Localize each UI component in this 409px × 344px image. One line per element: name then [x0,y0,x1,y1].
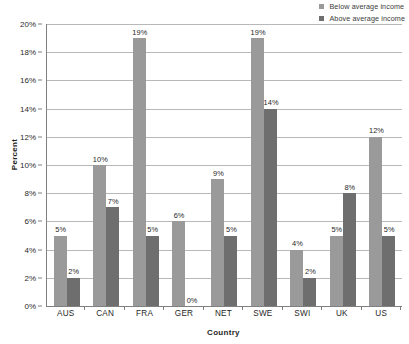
legend-label-above-average-income: Above average income [329,14,405,23]
y-axis-tick-mark [38,108,42,109]
chart-legend: Below average income Above average incom… [319,2,405,23]
bar-slot: 6% [172,24,185,306]
y-axis-tick-label: 6% [24,217,36,226]
legend-label-below-average-income: Below average income [329,2,404,11]
y-axis-tick-label: 2% [24,273,36,282]
bar[interactable] [133,38,146,306]
bar-slot: 10% [93,24,106,306]
bar-value-label: 14% [264,98,279,107]
bar-slot: 8% [343,24,356,306]
bar[interactable] [224,236,237,307]
bar-value-label: 7% [108,197,119,206]
legend-item-below-average-income: Below average income [319,2,404,11]
y-axis-tick-label: 0% [24,302,36,311]
bar-value-label: 0% [187,296,198,305]
bar[interactable] [330,236,343,307]
bar-slot: 2% [303,24,316,306]
bar-slot: 14% [264,24,277,306]
bar-slot: 7% [106,24,119,306]
bar-group: 5%2% [47,24,86,306]
bar-slot: 5% [330,24,343,306]
bar-group: 19%14% [244,24,283,306]
bar[interactable] [251,38,264,306]
y-axis-tick-mark [38,193,42,194]
bar[interactable] [67,278,80,306]
bar-slot: 12% [369,24,382,306]
y-axis-tick-labels: 0%2%4%6%8%10%12%14%16%18%20% [0,24,42,306]
bar-slot: 5% [146,24,159,306]
bar[interactable] [290,250,303,306]
bar[interactable] [93,165,106,306]
bar-slot: 5% [54,24,67,306]
bar-slot: 2% [67,24,80,306]
legend-swatch-below-average-income [319,4,324,9]
bar-value-label: 8% [344,183,355,192]
y-axis-tick-mark [38,136,42,137]
bar-value-label: 5% [384,225,395,234]
bar[interactable] [303,278,316,306]
bar-value-label: 2% [305,267,316,276]
x-axis-tick-label: SWI [283,309,322,318]
bar-chart: Below average income Above average incom… [0,0,409,344]
bar[interactable] [106,207,119,306]
x-axis-tick-label: NET [204,309,243,318]
bar-value-label: 4% [292,239,303,248]
y-axis-tick-mark [38,165,42,166]
y-axis-tick-label: 16% [20,76,36,85]
bar-slot: 5% [382,24,395,306]
x-axis-tick-label: GER [164,309,203,318]
x-axis-tick-label: UK [322,309,361,318]
bar-group: 10%7% [86,24,125,306]
x-axis-tick-label: US [362,309,401,318]
y-axis-tick-mark [38,306,42,307]
bar[interactable] [343,193,356,306]
y-axis-tick-mark [38,277,42,278]
y-axis-tick-label: 20% [20,20,36,29]
y-axis-tick-mark [38,80,42,81]
bar[interactable] [146,236,159,307]
legend-swatch-above-average-income [319,16,324,21]
y-axis-tick-label: 4% [24,245,36,254]
bar-group: 19%5% [126,24,165,306]
y-axis-tick-mark [38,24,42,25]
bar[interactable] [369,137,382,306]
plot-area: 5%2%10%7%19%5%6%0%9%5%19%14%4%2%5%8%12%5… [46,24,402,307]
y-axis-tick-mark [38,221,42,222]
bar[interactable] [382,236,395,307]
bar-group: 12%5% [363,24,402,306]
bar-slot: 19% [133,24,146,306]
bar-value-label: 6% [174,211,185,220]
x-axis-tick-label: SWE [243,309,282,318]
y-axis-tick-label: 18% [20,48,36,57]
bar-slot: 4% [290,24,303,306]
x-axis-tick-label: CAN [85,309,124,318]
bar-group: 4%2% [284,24,323,306]
x-axis-tick-label: FRA [125,309,164,318]
bar-value-label: 2% [68,267,79,276]
y-axis-tick-mark [38,52,42,53]
bar[interactable] [211,179,224,306]
bar-group: 5%8% [323,24,362,306]
bar-group: 9%5% [205,24,244,306]
bar-value-label: 9% [213,169,224,178]
bar-slot: 0% [185,24,198,306]
bar-group: 6%0% [165,24,204,306]
bar[interactable] [264,109,277,306]
legend-item-above-average-income: Above average income [319,14,405,23]
y-axis-tick-label: 8% [24,189,36,198]
x-axis-tick-label: AUS [46,309,85,318]
bar[interactable] [172,221,185,306]
y-axis-tick-mark [38,249,42,250]
bar-value-label: 5% [147,225,158,234]
bar-value-label: 5% [226,225,237,234]
x-axis-tick-labels: AUSCANFRAGERNETSWESWIUKUS [46,309,401,318]
x-axis-title: Country [46,328,401,337]
bar-slot: 19% [251,24,264,306]
y-axis-tick-label: 12% [20,132,36,141]
y-axis-tick-label: 10% [20,161,36,170]
bar-value-label: 5% [55,225,66,234]
bar-groups: 5%2%10%7%19%5%6%0%9%5%19%14%4%2%5%8%12%5… [47,24,402,306]
bar-slot: 9% [211,24,224,306]
bar[interactable] [54,236,67,307]
bar-value-label: 5% [331,225,342,234]
